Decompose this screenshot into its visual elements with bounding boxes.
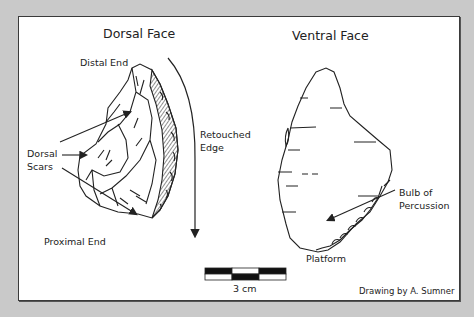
label-bulb-2: Percussion [399, 200, 450, 212]
label-bulb-1: Bulb of [399, 187, 432, 199]
scale-bar-label: 3 cm [233, 283, 257, 295]
label-platform: Platform [306, 253, 346, 265]
label-distal-end: Distal End [80, 57, 128, 69]
ventral-face-title: Ventral Face [292, 28, 369, 43]
ventral-flake-outline [278, 68, 392, 252]
label-proximal-end: Proximal End [44, 236, 106, 248]
lithic-drawing [0, 0, 474, 317]
label-retouched-edge-1: Retouched [200, 129, 251, 141]
label-dorsal-scars-2: Scars [27, 161, 53, 173]
dorsal-flake-outline [78, 64, 178, 218]
drawing-credit: Drawing by A. Sumner [359, 285, 454, 297]
dorsal-face-title: Dorsal Face [103, 26, 175, 41]
label-retouched-edge-2: Edge [200, 142, 224, 154]
scale-bar [205, 268, 286, 280]
label-dorsal-scars-1: Dorsal [27, 148, 57, 160]
